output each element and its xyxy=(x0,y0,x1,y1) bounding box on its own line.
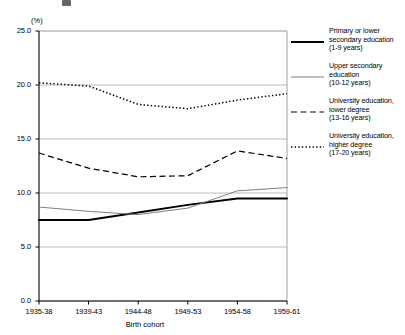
x-tick-label: 1949-53 xyxy=(162,307,214,316)
y-tick-label: 20.0 xyxy=(5,80,31,89)
legend-item-university-higher-degree: University education, higher degree (17-… xyxy=(291,132,403,158)
legend-item-label: University education, higher degree (17-… xyxy=(329,132,403,158)
series-line xyxy=(39,188,287,215)
legend-line-sample xyxy=(291,66,324,72)
series-line xyxy=(39,83,287,109)
y-axis-unit-label: (%) xyxy=(31,16,43,25)
chart-figure: (%) 0.05.010.015.020.025.0 1935-381939-4… xyxy=(0,0,405,335)
x-axis-title: Birth cohort xyxy=(0,320,290,329)
legend-item-label: University education, lower degree (13-1… xyxy=(329,97,403,123)
legend-item-primary-or-lower-secondary: Primary or lower secondary education (1-… xyxy=(291,27,403,53)
y-tick-label: 25.0 xyxy=(5,26,31,35)
legend-line-sample xyxy=(291,31,324,37)
legend-line-sample xyxy=(291,101,324,107)
legend-item-university-lower-degree: University education, lower degree (13-1… xyxy=(291,97,403,123)
chart-legend: Primary or lower secondary education (1-… xyxy=(291,27,403,167)
legend-line-sample xyxy=(291,136,324,142)
legend-item-label: Primary or lower secondary education (1-… xyxy=(329,27,403,53)
x-tick-label: 1935-38 xyxy=(13,307,65,316)
legend-item-upper-secondary: Upper secondary education (10-12 years) xyxy=(291,62,403,88)
y-tick-label: 15.0 xyxy=(5,134,31,143)
y-tick-label: 0.0 xyxy=(5,296,31,305)
legend-item-label: Upper secondary education (10-12 years) xyxy=(329,62,403,88)
x-tick-label: 1954-58 xyxy=(211,307,263,316)
y-tick-label: 10.0 xyxy=(5,188,31,197)
x-tick-label: 1959-61 xyxy=(261,307,313,316)
series-line xyxy=(39,151,287,177)
series-line xyxy=(39,198,287,220)
x-tick-label: 1944-48 xyxy=(112,307,164,316)
x-tick-label: 1939-43 xyxy=(63,307,115,316)
y-tick-label: 5.0 xyxy=(5,242,31,251)
